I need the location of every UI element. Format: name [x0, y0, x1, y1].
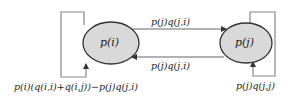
edge-j-to-i-label: p(j)q(j,i) [151, 61, 190, 71]
self-loop-j-label: p(j)q(j,j) [236, 81, 275, 91]
node-i-label: p(i) [100, 37, 119, 48]
node-j-label: p(j) [235, 37, 254, 48]
self-loop-i [61, 12, 86, 77]
edge-i-to-j-label: p(j)q(j,i) [151, 17, 190, 27]
self-loop-i-label: p(i)(q(i,i)+q(i,j))−p(j)q(j,i) [14, 82, 138, 92]
